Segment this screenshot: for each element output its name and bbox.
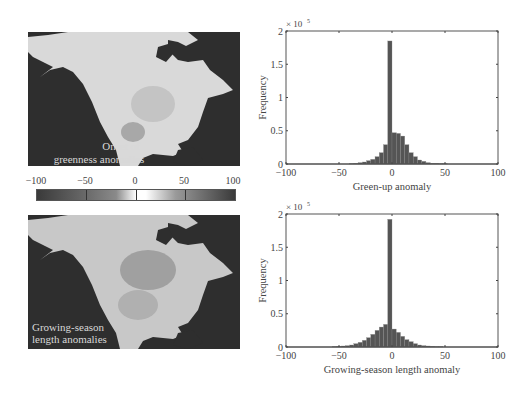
x-tick-label: −50 — [331, 350, 347, 361]
colorbar-tick-50: 50 — [179, 175, 189, 186]
histogram-bar — [409, 153, 413, 164]
y-tick-label: 2 — [278, 26, 283, 37]
histogram-bar — [413, 157, 417, 164]
histogram-bar — [400, 336, 404, 347]
histogram-bar — [405, 145, 409, 164]
x-tick-label: 50 — [440, 350, 450, 361]
histogram-bar — [405, 340, 409, 347]
histogram-bars — [350, 41, 448, 164]
y-tick-label: 2 — [278, 209, 283, 220]
histogram-bar — [396, 133, 400, 164]
map2-label-line1: Growing-season — [32, 321, 152, 333]
svg-text:5: 5 — [307, 18, 310, 24]
map2-label-line2: length anomalies — [32, 333, 152, 345]
colorbar-tick-neg100: −100 — [26, 175, 47, 186]
colorbar-tick-100: 100 — [226, 175, 241, 186]
x-tick-label: 100 — [491, 167, 506, 178]
histogram-svg: −100−5005010000.511.52× 105Green-up anom… — [255, 0, 529, 200]
histogram-bar — [392, 329, 396, 347]
colorbar — [36, 189, 236, 201]
x-tick-label: 0 — [390, 167, 395, 178]
histogram-bar — [384, 145, 388, 164]
histogram-bar — [392, 133, 396, 164]
y-tick-label: 0.5 — [271, 125, 284, 136]
x-tick-label: 0 — [390, 350, 395, 361]
histogram-bar — [396, 332, 400, 347]
y-tick-label: 1.5 — [271, 59, 284, 70]
y-tick-label: 0.5 — [271, 308, 284, 319]
x-axis-label: Growing-season length anomaly — [324, 364, 461, 375]
histogram-bar — [379, 327, 383, 347]
growing-season-length-map: Growing-season length anomalies — [28, 215, 240, 349]
histogram-bar — [400, 136, 404, 164]
y-axis-label: Frequency — [257, 75, 268, 120]
y-tick-label: 1 — [278, 275, 283, 286]
x-tick-label: 100 — [491, 350, 506, 361]
colorbar-tick-0: 0 — [133, 175, 138, 186]
map1-label-line2: greenness anomalies — [34, 153, 164, 165]
histogram-bar — [375, 330, 379, 347]
histogram-bars — [333, 219, 443, 347]
x-tick-label: −50 — [331, 167, 347, 178]
histogram-bar — [379, 153, 383, 164]
x-tick-label: 50 — [440, 167, 450, 178]
y-tick-label: 0 — [278, 342, 283, 353]
growing-season-histogram: −100−5005010000.511.52× 105Growing-seaso… — [255, 183, 529, 396]
histogram-bar — [371, 159, 375, 164]
histogram-bar — [388, 219, 392, 347]
histogram-bar — [375, 157, 379, 164]
y-tick-label: 0 — [278, 159, 283, 170]
green-up-histogram: −100−5005010000.511.52× 105Green-up anom… — [255, 0, 529, 200]
y-multiplier: × 10 — [286, 202, 303, 212]
y-tick-label: 1 — [278, 92, 283, 103]
y-multiplier: × 10 — [286, 19, 303, 29]
greenness-onset-map: Onset of greenness anomalies — [28, 32, 240, 166]
histogram-bar — [367, 338, 371, 347]
histogram-bar — [409, 342, 413, 347]
histogram-svg: −100−5005010000.511.52× 105Growing-seaso… — [255, 183, 529, 396]
colorbar-tick-neg50: −50 — [77, 175, 93, 186]
histogram-bar — [358, 342, 362, 347]
histogram-bar — [384, 324, 388, 347]
histogram-bar — [388, 41, 392, 164]
y-tick-label: 1.5 — [271, 242, 284, 253]
histogram-bar — [362, 340, 366, 347]
y-axis-label: Frequency — [257, 258, 268, 303]
histogram-bar — [371, 334, 375, 347]
svg-text:5: 5 — [307, 201, 310, 207]
map1-label-line1: Onset of — [86, 140, 156, 152]
